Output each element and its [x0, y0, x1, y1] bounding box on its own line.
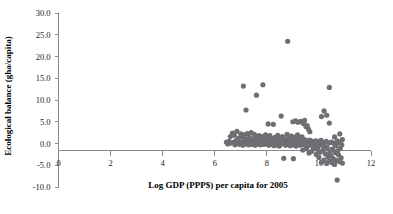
- y-tick-label: 20.0: [36, 52, 51, 62]
- y-tick-label: 25.0: [36, 30, 51, 40]
- data-point: [243, 107, 248, 112]
- x-tick-label: 0: [56, 158, 60, 168]
- y-tick-label: 0.0: [40, 139, 51, 149]
- y-axis-title: Ecological balance (gha/capita): [3, 36, 13, 156]
- data-point: [307, 129, 312, 134]
- data-point: [327, 120, 332, 125]
- data-point: [281, 156, 286, 161]
- data-point: [324, 113, 329, 118]
- chart-page: -10.0-5.00.05.010.015.020.025.030.0 0246…: [0, 0, 393, 214]
- y-tick-label: 10.0: [36, 95, 51, 105]
- x-axis-title: Log GDP (PPP$) per capita for 2005: [148, 180, 288, 190]
- y-tick-label: -10.0: [33, 182, 51, 192]
- data-points-layer: [224, 39, 345, 183]
- data-point: [322, 108, 327, 113]
- data-point: [335, 177, 340, 182]
- data-point: [337, 131, 342, 136]
- data-point: [271, 122, 276, 127]
- data-point: [260, 82, 265, 87]
- scatter-plot: -10.0-5.00.05.010.015.020.025.030.0 0246…: [0, 0, 393, 214]
- data-point: [241, 83, 246, 88]
- y-axis-ticks: -10.0-5.00.05.010.015.020.025.030.0: [33, 8, 59, 192]
- x-tick-label: 4: [161, 158, 166, 168]
- data-point: [302, 118, 307, 123]
- x-tick-label: 12: [367, 158, 376, 168]
- data-point: [266, 121, 271, 126]
- x-tick-label: 8: [265, 158, 269, 168]
- data-point: [340, 137, 345, 142]
- data-point: [319, 114, 324, 119]
- y-tick-label: 15.0: [36, 73, 51, 83]
- data-point: [316, 155, 321, 160]
- data-point: [279, 113, 284, 118]
- data-point: [339, 142, 344, 147]
- data-point: [285, 39, 290, 44]
- y-tick-label: 5.0: [40, 117, 51, 127]
- data-point: [338, 155, 343, 160]
- data-point: [327, 85, 332, 90]
- y-tick-label: 30.0: [36, 8, 51, 18]
- x-tick-label: 2: [108, 158, 112, 168]
- data-point: [340, 160, 345, 165]
- data-point: [291, 156, 296, 161]
- data-point: [254, 93, 259, 98]
- y-tick-label: -5.0: [37, 160, 50, 170]
- x-tick-label: 6: [213, 158, 217, 168]
